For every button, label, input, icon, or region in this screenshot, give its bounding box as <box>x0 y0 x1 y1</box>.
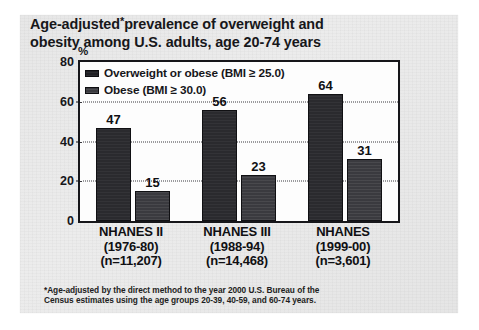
y-tick-label-20: 20 <box>60 174 74 188</box>
x-category-line-2: (1999-00) <box>292 240 394 255</box>
bar-value-label: 23 <box>251 159 265 174</box>
bar-value-label: 64 <box>318 78 332 93</box>
title-text-b: prevalence of overweight and <box>124 16 324 32</box>
y-tick-mark-40 <box>76 141 80 142</box>
legend-label-obese: Obese (BMI ≥ 30.0) <box>104 83 206 97</box>
y-axis-unit-label: % <box>78 45 88 57</box>
bar-3-overweight: 64 <box>308 94 343 221</box>
bar-1-obese: 15 <box>135 191 170 221</box>
x-category-line-3: (n=11,207) <box>80 254 182 269</box>
title-line-1: Age-adjusted*prevalence of overweight an… <box>30 16 422 34</box>
legend-swatch-obese-icon <box>85 87 99 94</box>
plot-area: 020406080471556236431 Overweight or obes… <box>78 60 400 223</box>
y-tick-mark-20 <box>76 181 80 182</box>
x-category-line-1: NHANES <box>292 225 394 240</box>
x-category-label-3: NHANES(1999-00)(n=3,601) <box>292 225 394 269</box>
x-category-line-3: (n=14,468) <box>186 254 288 269</box>
y-tick-label-40: 40 <box>60 135 74 149</box>
footnote-line-2: Census estimates using the age groups 20… <box>44 295 440 305</box>
x-category-label-2: NHANES III(1988-94)(n=14,468) <box>186 225 288 269</box>
y-tick-label-60: 60 <box>60 95 74 109</box>
legend-item-overweight: Overweight or obese (BMI ≥ 25.0) <box>85 66 285 80</box>
footnote: *Age-adjusted by the direct method to th… <box>44 285 440 306</box>
bar-2-overweight: 56 <box>202 110 237 221</box>
x-category-line-1: NHANES II <box>80 225 182 240</box>
legend-label-overweight: Overweight or obese (BMI ≥ 25.0) <box>104 66 285 80</box>
x-category-line-3: (n=3,601) <box>292 254 394 269</box>
x-category-label-1: NHANES II(1976-80)(n=11,207) <box>80 225 182 269</box>
footnote-line-1: *Age-adjusted by the direct method to th… <box>44 285 440 295</box>
bar-value-label: 47 <box>106 112 120 127</box>
x-category-line-2: (1976-80) <box>80 240 182 255</box>
y-tick-mark-60 <box>76 101 80 102</box>
legend-item-obese: Obese (BMI ≥ 30.0) <box>85 83 285 97</box>
legend-swatch-overweight-icon <box>85 70 99 77</box>
x-axis-labels: NHANES II(1976-80)(n=11,207)NHANES III(1… <box>78 225 400 271</box>
bar-3-obese: 31 <box>347 159 382 221</box>
x-category-line-2: (1988-94) <box>186 240 288 255</box>
bar-1-overweight: 47 <box>96 128 131 221</box>
chart-legend: Overweight or obese (BMI ≥ 25.0) Obese (… <box>85 66 285 100</box>
title-text-a: Age-adjusted <box>30 16 120 32</box>
y-tick-label-0: 0 <box>67 214 74 228</box>
bar-2-obese: 23 <box>241 175 276 221</box>
x-category-line-1: NHANES III <box>186 225 288 240</box>
gridline-60 <box>80 101 398 102</box>
y-tick-label-80: 80 <box>60 55 74 69</box>
bar-chart: % 020406080471556236431 Overweight or ob… <box>30 44 422 249</box>
bar-value-label: 31 <box>357 143 371 158</box>
bar-value-label: 15 <box>145 175 159 190</box>
